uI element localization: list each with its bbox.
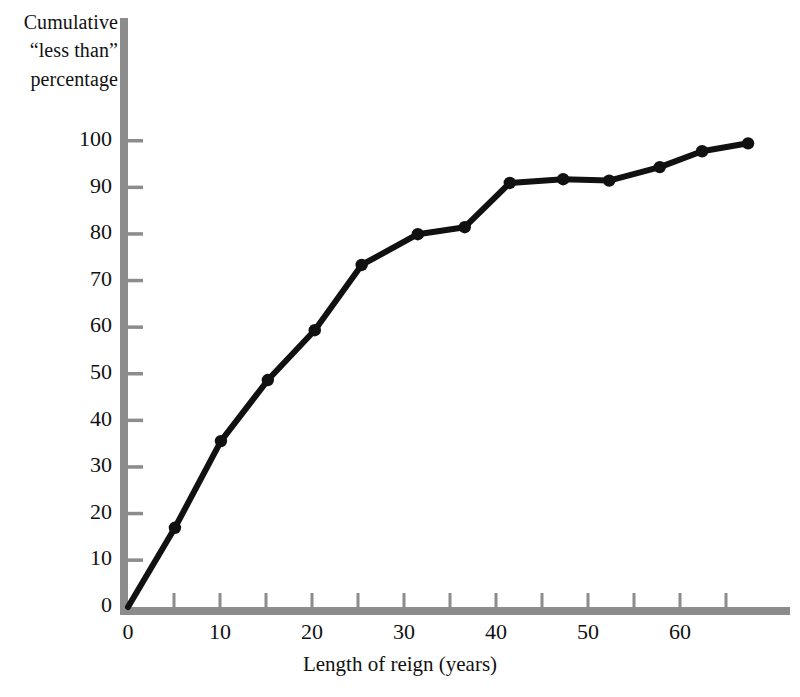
data-point-marker bbox=[355, 259, 367, 271]
y-axis-tick bbox=[128, 372, 143, 376]
y-tick-label: 40 bbox=[56, 406, 112, 432]
x-axis-tick bbox=[265, 593, 268, 607]
data-series-layer bbox=[128, 137, 754, 607]
y-axis-line bbox=[120, 18, 128, 615]
y-tick-label: 100 bbox=[56, 126, 112, 152]
y-tick-label: 20 bbox=[56, 499, 112, 525]
ticks-layer bbox=[128, 139, 728, 607]
data-point-marker bbox=[654, 161, 666, 173]
x-axis-tick bbox=[219, 593, 222, 607]
x-axis-tick bbox=[679, 593, 682, 607]
y-tick-label: 60 bbox=[56, 312, 112, 338]
data-point-marker bbox=[169, 522, 181, 534]
y-axis-tick bbox=[128, 465, 143, 469]
x-tick-label: 40 bbox=[471, 619, 521, 645]
x-axis-tick bbox=[311, 593, 314, 607]
y-axis-tick bbox=[128, 232, 143, 236]
data-point-marker bbox=[504, 177, 516, 189]
x-axis-tick bbox=[403, 593, 406, 607]
x-axis-tick bbox=[449, 593, 452, 607]
y-axis-tick bbox=[128, 512, 143, 516]
y-tick-label: 80 bbox=[56, 219, 112, 245]
y-tick-label: 90 bbox=[56, 173, 112, 199]
y-axis-tick bbox=[128, 558, 143, 562]
y-axis-tick bbox=[128, 325, 143, 329]
y-tick-label: 10 bbox=[56, 545, 112, 571]
x-axis-tick bbox=[633, 593, 636, 607]
x-axis-label: Length of reign (years) bbox=[0, 652, 800, 677]
axes-layer bbox=[120, 18, 790, 615]
x-tick-label: 0 bbox=[103, 619, 153, 645]
x-tick-label: 30 bbox=[379, 619, 429, 645]
chart-container: Cumulative “less than” percentage 010203… bbox=[0, 0, 800, 697]
data-point-marker bbox=[557, 173, 569, 185]
x-axis-tick bbox=[725, 593, 728, 607]
y-tick-label: 30 bbox=[56, 452, 112, 478]
x-axis-tick bbox=[587, 593, 590, 607]
y-axis-tick bbox=[128, 419, 143, 423]
x-tick-label: 10 bbox=[195, 619, 245, 645]
data-point-marker bbox=[309, 324, 321, 336]
data-point-marker bbox=[603, 174, 615, 186]
data-point-marker bbox=[215, 435, 227, 447]
y-tick-label: 70 bbox=[56, 266, 112, 292]
x-axis-line bbox=[120, 607, 790, 615]
x-tick-label: 60 bbox=[655, 619, 705, 645]
data-point-marker bbox=[742, 137, 754, 149]
x-tick-label: 50 bbox=[563, 619, 613, 645]
data-point-marker bbox=[696, 145, 708, 157]
data-point-marker bbox=[459, 221, 471, 233]
x-axis-tick bbox=[495, 593, 498, 607]
y-tick-label: 0 bbox=[56, 592, 112, 618]
data-point-marker bbox=[412, 228, 424, 240]
data-point-marker bbox=[262, 374, 274, 386]
y-axis-tick bbox=[128, 139, 143, 143]
y-tick-label: 50 bbox=[56, 359, 112, 385]
x-axis-tick bbox=[357, 593, 360, 607]
chart-svg bbox=[0, 0, 800, 697]
x-tick-label: 20 bbox=[287, 619, 337, 645]
x-axis-tick bbox=[541, 593, 544, 607]
y-axis-tick bbox=[128, 186, 143, 190]
data-line-series-0 bbox=[128, 143, 748, 607]
y-axis-tick bbox=[128, 279, 143, 283]
x-axis-tick bbox=[173, 593, 176, 607]
